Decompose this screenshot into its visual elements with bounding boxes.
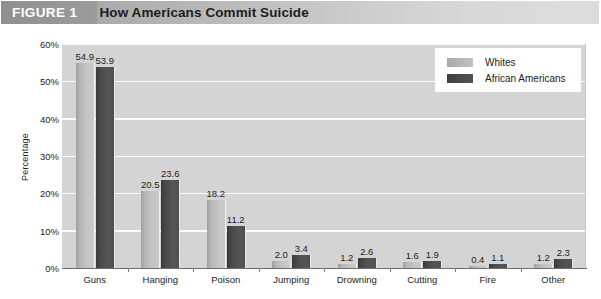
bar-value-label: 3.4 <box>295 243 308 254</box>
bar-value-label: 2.6 <box>360 246 373 257</box>
y-axis-tick-label: 20% <box>15 188 59 199</box>
bar-value-label: 1.2 <box>340 252 353 263</box>
gridline <box>62 44 585 46</box>
legend-item: African Americans <box>447 70 581 86</box>
bar-value-label: 2.3 <box>557 247 570 258</box>
chart-body: Percentage 0%10%20%30%40%50%60% 54.953.9… <box>1 24 599 297</box>
bar-poison-african-americans: 11.2 <box>227 226 246 268</box>
bar-value-label: 2.0 <box>275 249 288 260</box>
bar-value-label: 54.9 <box>76 51 95 62</box>
bar-value-label: 18.2 <box>207 188 226 199</box>
bar-value-label: 53.9 <box>96 55 115 66</box>
x-axis-tick-mark <box>193 268 194 272</box>
bar-cutting-african-americans: 1.9 <box>423 261 442 268</box>
x-axis-label-poison: Poison <box>211 274 240 285</box>
bar-value-label: 11.2 <box>227 214 245 225</box>
y-axis-tick-label: 10% <box>15 225 59 236</box>
bar-poison-whites: 18.2 <box>207 200 226 268</box>
figure-header: FIGURE 1 How Americans Commit Suicide <box>1 1 599 24</box>
bar-hanging-african-americans: 23.6 <box>161 180 180 268</box>
y-axis-tick-label: 60% <box>15 39 59 50</box>
figure-number-label: FIGURE 1 <box>1 5 77 20</box>
bar-other-african-americans: 2.3 <box>554 259 573 268</box>
x-axis-label-fire: Fire <box>480 274 496 285</box>
x-axis-label-other: Other <box>541 274 565 285</box>
y-axis-tick-labels: 0%10%20%30%40%50%60% <box>15 44 59 268</box>
bar-jumping-whites: 2.0 <box>272 261 291 268</box>
x-axis-label-drowning: Drowning <box>337 274 377 285</box>
x-axis-label-cutting: Cutting <box>407 274 437 285</box>
chart-legend: Whites African Americans <box>435 48 581 92</box>
bar-value-label: 20.5 <box>141 179 160 190</box>
x-axis-tick-mark <box>128 268 129 272</box>
legend-item: Whites <box>447 54 581 70</box>
y-axis-tick-label: 50% <box>15 76 59 87</box>
x-axis-tick-mark <box>390 268 391 272</box>
bar-value-label: 1.9 <box>426 249 439 260</box>
bar-value-label: 1.6 <box>406 250 419 261</box>
x-axis-tick-mark <box>521 268 522 272</box>
bar-drowning-african-americans: 2.6 <box>358 258 377 268</box>
x-axis-tick-mark <box>259 268 260 272</box>
y-axis-tick-label: 40% <box>15 113 59 124</box>
y-axis-tick-label: 0% <box>15 263 59 274</box>
figure-container: FIGURE 1 How Americans Commit Suicide Pe… <box>0 0 601 299</box>
bar-value-label: 23.6 <box>161 168 180 179</box>
bar-jumping-african-americans: 3.4 <box>292 255 311 268</box>
bar-guns-african-americans: 53.9 <box>96 67 115 268</box>
figure-title: How Americans Commit Suicide <box>99 5 308 20</box>
bar-guns-whites: 54.9 <box>76 63 95 268</box>
bar-hanging-whites: 20.5 <box>141 191 160 268</box>
x-axis-tick-mark <box>455 268 456 272</box>
bar-value-label: 0.4 <box>471 254 484 265</box>
x-axis-tick-mark <box>324 268 325 272</box>
bar-value-label: 1.1 <box>491 252 504 263</box>
x-axis-label-guns: Guns <box>83 274 106 285</box>
x-axis-label-jumping: Jumping <box>273 274 309 285</box>
legend-label-african-americans: African Americans <box>485 73 566 84</box>
legend-swatch-whites <box>447 58 473 67</box>
gridline <box>62 156 585 158</box>
legend-label-whites: Whites <box>485 57 516 68</box>
y-axis-tick-label: 30% <box>15 151 59 162</box>
gridline <box>62 118 585 120</box>
legend-swatch-african-americans <box>447 74 473 83</box>
bar-value-label: 1.2 <box>537 252 550 263</box>
x-axis-label-hanging: Hanging <box>143 274 178 285</box>
